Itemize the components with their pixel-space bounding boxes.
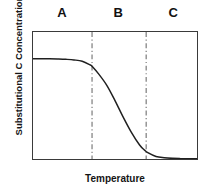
region-label-a: A	[52, 6, 72, 20]
x-axis-title: Temperature	[32, 173, 198, 184]
plot-canvas	[33, 32, 197, 159]
data-curve-substitutional-c	[33, 59, 197, 159]
region-label-b: B	[108, 6, 128, 20]
plot-area	[32, 31, 198, 160]
chart-figure: A B C Substitutional C Concentration Tem…	[0, 0, 212, 195]
region-label-c: C	[163, 6, 183, 20]
y-axis-title: Substitutional C Concentration	[13, 0, 24, 141]
